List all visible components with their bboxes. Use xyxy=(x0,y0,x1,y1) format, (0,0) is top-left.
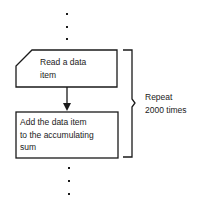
loop-annotation-line: 2000 times xyxy=(145,104,187,117)
continuation-dots-bottom xyxy=(68,167,70,195)
loop-brace xyxy=(123,50,135,157)
add-to-sum-label-line: Add the data item xyxy=(20,116,94,129)
flow-arrow xyxy=(63,87,71,111)
read-data-label-line: Read a data xyxy=(40,56,86,69)
loop-annotation-line: Repeat xyxy=(145,91,187,104)
add-to-sum-label-line: to the accumulating xyxy=(20,129,94,142)
continuation-dots-top xyxy=(66,13,68,40)
loop-annotation: Repeat 2000 times xyxy=(145,91,187,116)
read-data-label: Read a data item xyxy=(40,56,86,81)
add-to-sum-label-line: sum xyxy=(20,141,94,154)
add-to-sum-label: Add the data item to the accumulating su… xyxy=(20,116,94,154)
read-data-label-line: item xyxy=(40,69,86,82)
